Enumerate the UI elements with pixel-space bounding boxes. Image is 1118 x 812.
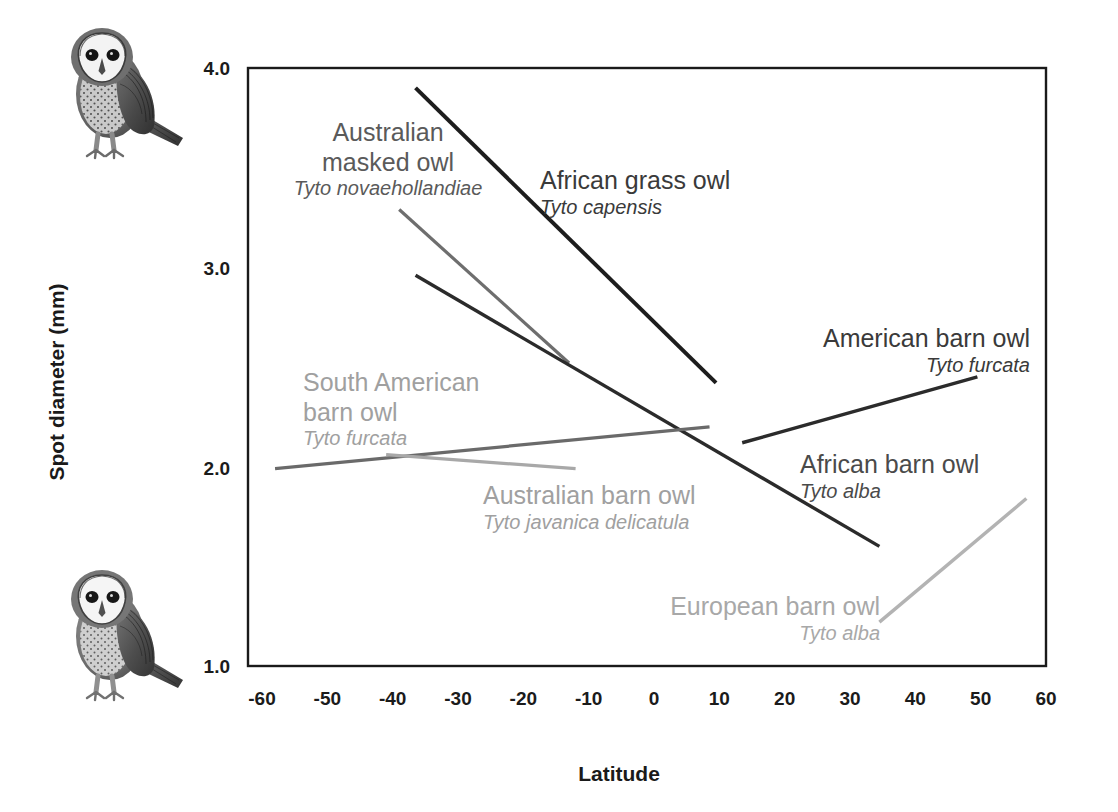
x-axis-title: Latitude [60, 762, 1118, 786]
x-tick-60: 60 [1016, 688, 1076, 710]
x-tick-0: 0 [624, 688, 684, 710]
annotation-scientific-name: Tyto novaehollandiae [188, 177, 588, 201]
owl-spot-diameter-figure: 4.0 3.0 2.0 1.0 Spot diameter (mm) Latit… [0, 0, 1118, 812]
x-tick--10: -10 [559, 688, 619, 710]
annotation-scientific-name: Tyto alba [480, 622, 880, 646]
annotation-common-name: South Americanbarn owl [303, 368, 480, 427]
annotation-scientific-name: Tyto alba [800, 480, 979, 504]
y-tick-4: 4.0 [170, 58, 230, 80]
annotation-scientific-name: Tyto furcata [630, 354, 1030, 378]
annotation-european-barn-owl: European barn owlTyto alba [480, 592, 880, 645]
annotation-common-name: African barn owl [800, 450, 979, 480]
annotation-common-name: European barn owl [480, 592, 880, 622]
x-tick-30: 30 [820, 688, 880, 710]
annotation-scientific-name: Tyto capensis [540, 196, 730, 220]
annotation-american-barn-owl: American barn owlTyto furcata [630, 324, 1030, 377]
x-tick--30: -30 [428, 688, 488, 710]
x-tick-50: 50 [951, 688, 1011, 710]
annotation-australian-barn-owl: Australian barn owlTyto javanica delicat… [483, 481, 696, 534]
y-tick-3: 3.0 [170, 258, 230, 280]
annotation-african-barn-owl: African barn owlTyto alba [800, 450, 979, 503]
x-tick--60: -60 [232, 688, 292, 710]
annotation-scientific-name: Tyto javanica delicatula [483, 511, 696, 535]
y-tick-2: 2.0 [170, 458, 230, 480]
annotation-scientific-name: Tyto furcata [303, 427, 480, 451]
x-tick-20: 20 [755, 688, 815, 710]
y-axis-title: Spot diameter (mm) [45, 272, 69, 492]
x-tick--20: -20 [493, 688, 553, 710]
annotation-common-name: Australianmasked owl [188, 118, 588, 177]
annotation-south-american-barn-owl: South Americanbarn owlTyto furcata [303, 368, 480, 451]
annotation-common-name: African grass owl [540, 166, 730, 196]
annotation-common-name: Australian barn owl [483, 481, 696, 511]
x-tick-40: 40 [885, 688, 945, 710]
x-tick--40: -40 [363, 688, 423, 710]
y-tick-1: 1.0 [170, 656, 230, 678]
x-tick-10: 10 [689, 688, 749, 710]
annotation-australian-masked-owl: Australianmasked owlTyto novaehollandiae [188, 118, 588, 201]
annotation-common-name: American barn owl [630, 324, 1030, 354]
x-tick--50: -50 [297, 688, 357, 710]
annotation-african-grass-owl: African grass owlTyto capensis [540, 166, 730, 219]
